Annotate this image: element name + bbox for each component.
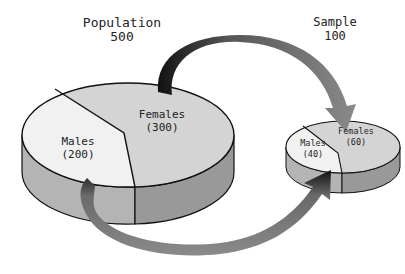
population-total: 500: [110, 29, 133, 44]
population-females-value: (300): [145, 121, 178, 134]
population-title: Population: [83, 15, 161, 30]
population-males-value: (200): [61, 148, 94, 161]
sample-females-value: (60): [346, 137, 366, 147]
sample-title: Sample: [313, 15, 356, 29]
population-males-label: Males: [61, 135, 94, 148]
sampling-diagram: Population 500 Females (300) Males (200)…: [0, 0, 405, 274]
sample-females-label: Females: [338, 126, 374, 136]
population-pie: [0, 60, 234, 224]
sample-total: 100: [324, 29, 346, 43]
sample-males-value: (40): [303, 149, 323, 159]
population-females-label: Females: [139, 108, 185, 121]
sample-males-label: Males: [300, 138, 326, 148]
